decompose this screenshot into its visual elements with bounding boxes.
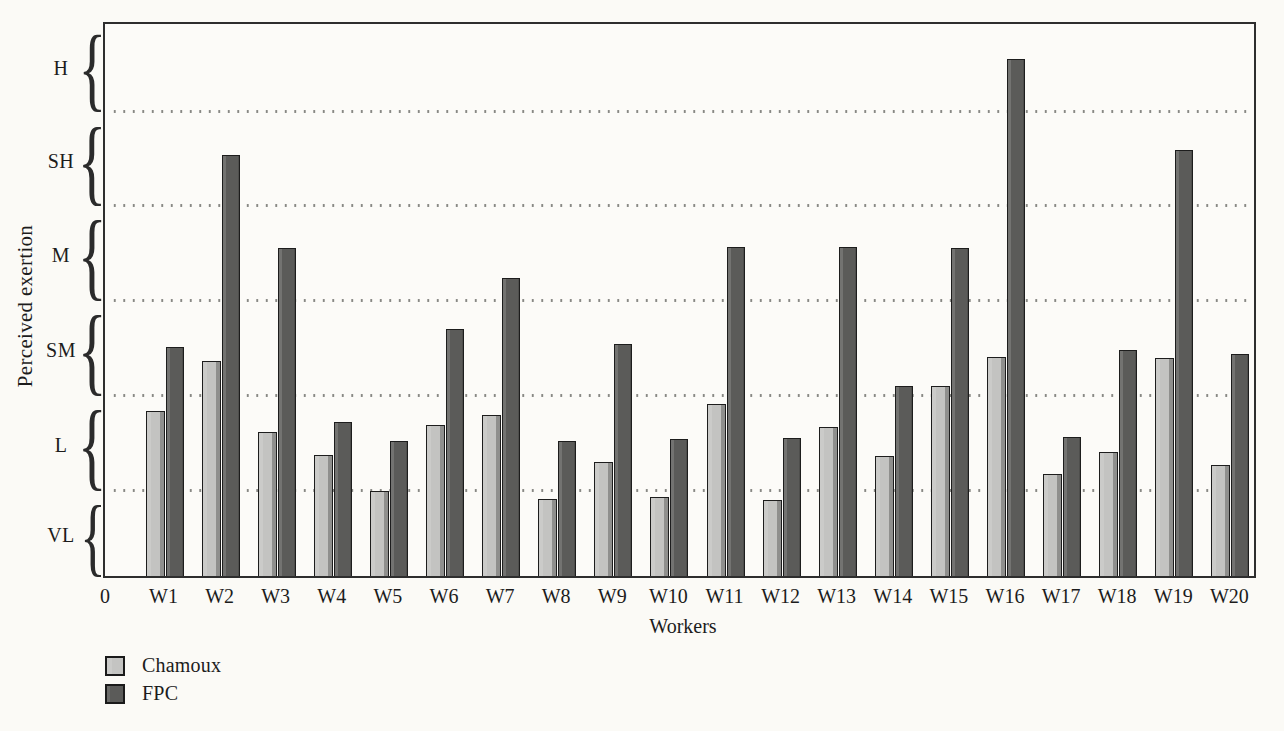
bar-chamoux-w7 [482, 415, 501, 576]
bar-group-w8 [538, 24, 576, 576]
bar-fpc-w4 [334, 422, 352, 576]
x-tick-label-w3: W3 [244, 585, 308, 608]
x-tick-label-w9: W9 [580, 585, 644, 608]
brace-icon: { [78, 113, 107, 209]
bar-group-w17 [1043, 24, 1081, 576]
x-tick-label-w18: W18 [1085, 585, 1149, 608]
bar-chamoux-w20 [1211, 465, 1230, 576]
bar-fpc-w15 [951, 248, 969, 576]
x-tick-label-w14: W14 [861, 585, 925, 608]
bar-chamoux-w19 [1155, 358, 1174, 576]
x-tick-label-w2: W2 [188, 585, 252, 608]
bar-fpc-w19 [1175, 150, 1193, 576]
x-tick-label-w5: W5 [356, 585, 420, 608]
bar-group-w20 [1211, 24, 1249, 576]
bar-fpc-w14 [895, 386, 913, 576]
x-tick-label-w17: W17 [1029, 585, 1093, 608]
x-tick-label-w20: W20 [1197, 585, 1261, 608]
x-tick-label-w19: W19 [1141, 585, 1205, 608]
bar-fpc-w7 [502, 278, 520, 576]
bar-group-w10 [650, 24, 688, 576]
bar-group-w1 [146, 24, 184, 576]
bar-fpc-w12 [783, 438, 801, 576]
bar-group-w2 [202, 24, 240, 576]
brace-icon: { [79, 22, 107, 115]
y-band-brace-h: { [79, 23, 106, 114]
bar-fpc-w8 [558, 441, 576, 576]
bar-chamoux-w4 [314, 455, 333, 576]
bar-chamoux-w11 [707, 404, 726, 576]
bar-chamoux-w15 [931, 386, 950, 576]
bar-fpc-w9 [614, 344, 632, 576]
legend-swatch-chamoux [105, 656, 125, 676]
bar-fpc-w20 [1231, 354, 1249, 576]
bar-chamoux-w6 [426, 425, 445, 576]
brace-icon: { [80, 492, 106, 579]
bar-group-w4 [314, 24, 352, 576]
y-band-brace-vl: { [79, 493, 106, 578]
brace-icon: { [78, 207, 107, 304]
y-band-brace-sm: { [79, 303, 106, 398]
legend: ChamouxFPC [105, 654, 221, 705]
bar-chamoux-w17 [1043, 474, 1062, 576]
legend-item: FPC [105, 682, 221, 705]
bar-group-w19 [1155, 24, 1193, 576]
bar-chamoux-w16 [987, 357, 1006, 576]
legend-label-chamoux: Chamoux [142, 654, 221, 677]
legend-label-fpc: FPC [142, 682, 178, 705]
y-band-brace-m: { [79, 208, 106, 303]
legend-swatch-fpc [105, 684, 125, 704]
bar-chamoux-w3 [258, 432, 277, 576]
x-tick-label-w10: W10 [636, 585, 700, 608]
x-tick-label-w6: W6 [412, 585, 476, 608]
bar-fpc-w5 [390, 441, 408, 576]
bar-chamoux-w10 [650, 497, 669, 576]
bar-chamoux-w8 [538, 499, 557, 576]
brace-icon: { [78, 302, 107, 399]
bar-chamoux-w18 [1099, 452, 1118, 576]
x-tick-label-w13: W13 [805, 585, 869, 608]
bar-fpc-w3 [278, 248, 296, 576]
bar-fpc-w10 [670, 439, 688, 576]
bar-group-w5 [370, 24, 408, 576]
bar-fpc-w16 [1007, 59, 1025, 576]
bar-group-w7 [482, 24, 520, 576]
x-tick-label-w15: W15 [917, 585, 981, 608]
x-tick-label-w4: W4 [300, 585, 364, 608]
y-band-brace-sh: { [79, 114, 106, 208]
bar-fpc-w1 [166, 347, 184, 576]
legend-item: Chamoux [105, 654, 221, 677]
bar-group-w3 [258, 24, 296, 576]
bar-fpc-w2 [222, 155, 240, 576]
bar-fpc-w17 [1063, 437, 1081, 576]
x-tick-label-w1: W1 [132, 585, 196, 608]
x-axis-title: Workers [553, 615, 813, 638]
bar-group-w9 [594, 24, 632, 576]
bar-group-w16 [987, 24, 1025, 576]
x-tick-label-w16: W16 [973, 585, 1037, 608]
bar-group-w14 [875, 24, 913, 576]
bar-fpc-w6 [446, 329, 464, 576]
x-tick-label-w12: W12 [749, 585, 813, 608]
brace-icon: { [78, 397, 107, 494]
plot-area [103, 22, 1256, 578]
bar-group-w6 [426, 24, 464, 576]
x-tick-label-w7: W7 [468, 585, 532, 608]
y-band-brace-l: { [79, 398, 106, 493]
bar-fpc-w13 [839, 247, 857, 576]
bar-group-w11 [707, 24, 745, 576]
bar-chamoux-w9 [594, 462, 613, 576]
bar-chamoux-w5 [370, 491, 389, 576]
figure: Perceived exertion H{SH{M{SM{L{VL{ 0 W1W… [0, 0, 1284, 731]
bar-group-w15 [931, 24, 969, 576]
bar-chamoux-w1 [146, 411, 165, 576]
bar-fpc-w11 [727, 247, 745, 576]
x-tick-label-w11: W11 [693, 585, 757, 608]
bar-fpc-w18 [1119, 350, 1137, 576]
bar-chamoux-w13 [819, 427, 838, 576]
bar-group-w12 [763, 24, 801, 576]
bar-chamoux-w2 [202, 361, 221, 576]
bar-group-w13 [819, 24, 857, 576]
bar-chamoux-w12 [763, 500, 782, 576]
bar-group-w18 [1099, 24, 1137, 576]
